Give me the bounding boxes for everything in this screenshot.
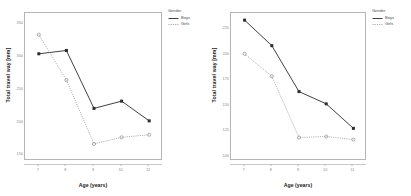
legend-label: Girls: [385, 21, 393, 27]
left-chart-panel: Total travel way [mm] 350300250200150 78…: [0, 0, 206, 196]
y-tick-label: 200: [223, 50, 230, 55]
x-tick-label: 8: [64, 167, 66, 172]
x-tick-mark: [325, 164, 326, 166]
left-x-axis-title: Age (years): [24, 182, 162, 188]
y-tick-label: 150: [17, 151, 24, 156]
data-point-boys: [325, 102, 328, 105]
right-y-tick-labels: 225200175150125100: [215, 12, 230, 160]
right-plot-area: [231, 13, 365, 159]
legend-key-solid-line-icon: [168, 16, 179, 21]
data-point-boys: [93, 107, 96, 110]
data-point-boys: [352, 127, 355, 130]
right-x-tick-labels: 7891011: [230, 164, 366, 176]
legend-label: Girls: [181, 21, 189, 27]
legend-entry-girls[interactable]: Girls: [372, 21, 394, 27]
right-legend: Gender BoysGirls: [372, 8, 394, 27]
legend-key-solid-line-icon: [372, 16, 383, 21]
x-tick-label: 9: [92, 167, 94, 172]
y-tick-label: 300: [17, 52, 24, 57]
right-legend-entries: BoysGirls: [372, 15, 394, 27]
x-tick-label: 11: [350, 167, 354, 172]
y-tick-label: 125: [223, 127, 230, 132]
x-tick-label: 7: [243, 167, 245, 172]
data-point-boys: [243, 19, 246, 22]
data-point-boys: [120, 100, 123, 103]
series-line-boys: [245, 20, 354, 128]
x-tick-mark: [243, 164, 244, 166]
x-tick-mark: [270, 164, 271, 166]
x-tick-mark: [352, 164, 353, 166]
x-tick-mark: [120, 164, 121, 166]
left-legend-title: Gender: [168, 8, 190, 13]
x-tick-label: 9: [297, 167, 299, 172]
data-point-boys: [65, 49, 68, 52]
y-tick-label: 175: [223, 76, 230, 81]
left-x-tick-labels: 7891011: [24, 164, 162, 176]
x-tick-mark: [298, 164, 299, 166]
data-point-boys: [298, 90, 301, 93]
data-point-boys: [148, 119, 151, 122]
y-tick-label: 350: [17, 19, 24, 24]
y-tick-label: 150: [223, 101, 230, 106]
y-tick-label: 100: [223, 152, 230, 157]
right-series-lines: [231, 13, 367, 161]
right-legend-title: Gender: [372, 8, 394, 13]
series-line-girls: [39, 35, 149, 144]
left-plot-panel: [24, 12, 162, 160]
x-tick-label: 7: [37, 167, 39, 172]
left-legend-entries: BoysGirls: [168, 15, 190, 27]
x-tick-mark: [148, 164, 149, 166]
data-point-girls: [37, 33, 40, 36]
x-tick-label: 11: [146, 167, 150, 172]
legend-key-dotted-line-icon: [168, 22, 179, 27]
legend-entry-girls[interactable]: Girls: [168, 21, 190, 27]
x-tick-mark: [65, 164, 66, 166]
right-x-axis-title: Age (years): [230, 182, 366, 188]
data-point-boys: [270, 44, 273, 47]
right-chart-panel: Total travel way [mm] 225200175150125100…: [206, 0, 411, 196]
left-plot-area: [25, 13, 161, 159]
legend-key-dotted-line-icon: [372, 22, 383, 27]
right-plot-panel: [230, 12, 366, 160]
y-tick-label: 200: [17, 118, 24, 123]
left-legend: Gender BoysGirls: [168, 8, 190, 27]
figure-root: Total travel way [mm] 350300250200150 78…: [0, 0, 411, 196]
y-tick-label: 250: [17, 85, 24, 90]
x-tick-label: 8: [270, 167, 272, 172]
data-point-boys: [37, 52, 40, 55]
x-tick-label: 10: [118, 167, 122, 172]
x-tick-mark: [37, 164, 38, 166]
x-tick-mark: [93, 164, 94, 166]
series-line-boys: [39, 50, 149, 120]
x-tick-label: 10: [323, 167, 327, 172]
y-tick-label: 225: [223, 25, 230, 30]
left-series-lines: [25, 13, 163, 161]
series-line-girls: [245, 54, 354, 140]
left-y-tick-labels: 350300250200150: [9, 12, 24, 160]
